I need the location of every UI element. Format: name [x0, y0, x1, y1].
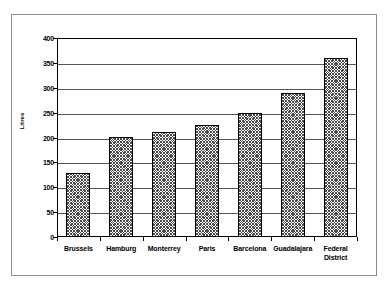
y-tick-mark: [53, 212, 57, 213]
x-category-label: Hamburg: [100, 244, 143, 253]
x-category-label: Paris: [186, 244, 229, 253]
x-tick-mark: [186, 237, 187, 241]
y-tick-mark: [53, 187, 57, 188]
x-tick-mark: [57, 237, 58, 241]
x-tick-mark: [357, 237, 358, 241]
x-category-label: Barcelona: [228, 244, 271, 253]
x-category-label: Monterrey: [143, 244, 186, 253]
bar: [109, 137, 133, 237]
x-tick-mark: [271, 237, 272, 241]
y-tick-mark: [53, 63, 57, 64]
y-tick-mark: [53, 113, 57, 114]
x-axis-tick-marks: [57, 237, 357, 242]
x-tick-mark: [228, 237, 229, 241]
x-tick-mark: [143, 237, 144, 241]
bars-layer: [57, 38, 357, 237]
x-category-label: FederalDistrict: [314, 244, 357, 262]
bar: [195, 125, 219, 237]
y-axis-title: Litres: [19, 101, 25, 141]
y-tick-mark: [53, 237, 57, 238]
bar: [281, 93, 305, 237]
x-axis-category-labels: BrusselsHamburgMonterreyParisBarcelonaGu…: [57, 244, 357, 274]
x-tick-mark: [100, 237, 101, 241]
chart-figure: Litres 400350300250200150100500 Brussels…: [0, 0, 389, 289]
x-tick-mark: [314, 237, 315, 241]
bar: [324, 58, 348, 237]
y-tick-mark: [53, 38, 57, 39]
x-category-label: Brussels: [57, 244, 100, 253]
y-tick-mark: [53, 138, 57, 139]
y-tick-mark: [53, 162, 57, 163]
x-category-label: Guadalajara: [271, 244, 314, 253]
bar: [66, 173, 90, 237]
y-axis-tick-labels: 400350300250200150100500: [28, 38, 54, 237]
y-tick-mark: [53, 88, 57, 89]
bar: [152, 132, 176, 237]
bar: [238, 113, 262, 237]
